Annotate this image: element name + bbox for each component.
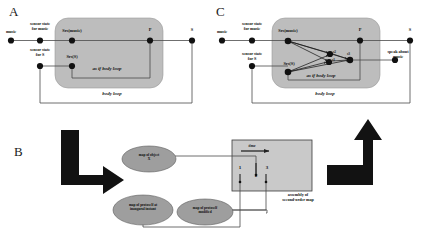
panel-c-label-p: P: [352, 28, 368, 33]
panel-b-label-protoself-modified-line2: modified: [180, 211, 230, 215]
panel-b-connector-protoself-modified: [232, 210, 267, 213]
panel-c-label-s: S: [402, 28, 418, 33]
panel-c-letter: C: [216, 4, 225, 20]
panel-a-node-music: [8, 37, 14, 43]
panel-c-label-sensor-s-line2: for S: [234, 57, 270, 62]
panel-b-label-protoself-inaugural-line2: inaugural instant: [116, 208, 170, 212]
panel-a-node-sensor-s: [37, 63, 43, 69]
panel-c-label-srs-s: Srs(S): [275, 62, 303, 67]
panel-a-label-sensor-s-line2: for S: [22, 53, 58, 58]
panel-c-label-s2: s2: [333, 50, 345, 55]
panel-b-left-elbow-arrow: [61, 130, 124, 194]
panel-b-tick-3-dot: [265, 181, 268, 184]
panel-a-label-srs-music: Srs(music): [54, 29, 90, 34]
panel-c-label-s1: s1: [332, 58, 344, 63]
panel-a-node-sensor-music: [37, 37, 43, 43]
panel-b-label-tick-2: 2: [250, 174, 262, 179]
panel-b-label-tick-3: 3: [261, 166, 273, 171]
panel-a-node-srs-s: [69, 63, 75, 69]
panel-b-label-time: time: [240, 144, 264, 149]
panel-c-node-s3: [347, 57, 353, 63]
panel-a-letter: A: [9, 4, 18, 20]
panel-c-label-music: music: [211, 30, 233, 35]
panel-a-node-srs-music: [69, 37, 75, 43]
panel-a-label-srs-s: Srs(S): [58, 55, 86, 60]
panel-b-connector-protoself-modified-line: [232, 210, 267, 213]
panel-c-label-s3: s3: [347, 52, 359, 57]
panel-b-tick-1-dot: [239, 181, 242, 184]
panel-c-label-as-if-body-loop: as if body loop: [292, 74, 350, 79]
panel-b-letter: B: [14, 144, 23, 160]
panel-c-node-sensor-music: [249, 37, 255, 43]
panel-a-label-body-loop: body loop: [87, 92, 137, 97]
panel-b-label-tick-1: 1: [234, 166, 246, 171]
panel-c-label-sensor-music-line2: for music: [234, 27, 270, 32]
panel-b-label-caption-line2: second-order map: [268, 198, 328, 203]
panel-c-label-srs-music: Srs(music): [270, 29, 306, 34]
panel-a-label-p: P: [142, 28, 158, 33]
panel-c-node-sensor-s: [249, 63, 255, 69]
panel-a-label-s: S: [184, 28, 200, 33]
panel-c-node-srs-s: [285, 69, 292, 76]
panel-c-node-s: [407, 37, 413, 43]
panel-a-label-sensor-music-line2: for music: [22, 27, 58, 32]
panel-b-right-elbow-arrow: [327, 119, 382, 185]
panel-c-node-srs-music: [285, 38, 292, 45]
panel-c-label-body-loop: body loop: [300, 92, 350, 97]
panel-a-label-as-if-body-loop: as if body loop: [78, 67, 136, 72]
panel-a-node-s: [189, 37, 195, 43]
panel-a-label-music: music: [0, 30, 22, 35]
panel-b-label-map-object-x-line2: X: [127, 158, 171, 162]
panel-c-label-speak-line2: music: [378, 55, 418, 60]
panel-c-node-p: [357, 37, 363, 43]
panel-c-node-music: [219, 37, 225, 43]
panel-a-node-p: [147, 37, 153, 43]
